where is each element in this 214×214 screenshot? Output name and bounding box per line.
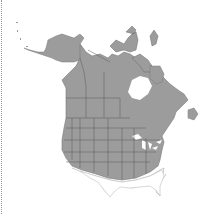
- north-america-map: [0, 0, 214, 214]
- main-range: [62, 44, 188, 180]
- newfoundland: [188, 108, 198, 120]
- range-map: [0, 0, 214, 214]
- aleutian-islands: [16, 22, 28, 47]
- alaska: [24, 34, 84, 62]
